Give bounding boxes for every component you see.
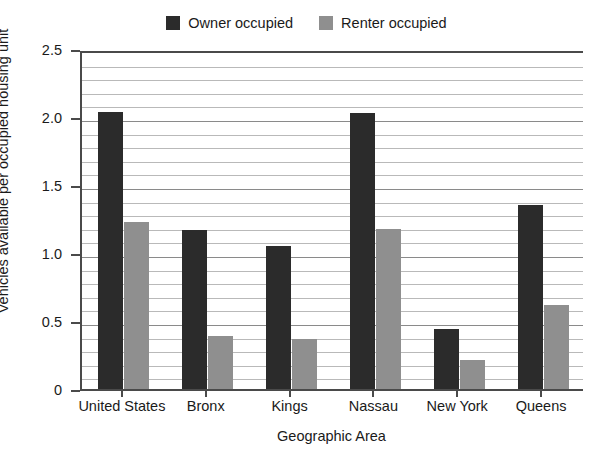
bar	[518, 205, 543, 389]
x-tick-mark	[121, 391, 123, 397]
bar	[460, 360, 485, 389]
x-tick-mark	[540, 391, 542, 397]
y-tick-mark	[71, 254, 80, 256]
y-tick-mark	[71, 390, 80, 392]
y-tick-mark	[71, 118, 80, 120]
y-tick-label: 0	[18, 382, 62, 398]
gridline-minor	[82, 366, 583, 367]
bar	[182, 230, 207, 389]
y-tick-mark	[71, 50, 80, 52]
x-tick-mark	[289, 391, 291, 397]
gridline-minor	[82, 67, 583, 68]
bar	[292, 339, 317, 389]
gridline-minor	[82, 243, 583, 244]
legend-entry-renter-occupied: Renter occupied	[319, 16, 447, 31]
bar	[376, 229, 401, 389]
bar	[266, 246, 291, 389]
bar	[350, 113, 375, 389]
gridline-minor	[82, 162, 583, 163]
bar	[98, 112, 123, 389]
gridline-minor	[82, 271, 583, 272]
plot-area	[80, 51, 583, 391]
gridline-major	[82, 189, 583, 190]
gridline-minor	[82, 107, 583, 108]
y-tick-mark	[71, 186, 80, 188]
gridline-minor	[82, 148, 583, 149]
bar	[208, 336, 233, 389]
y-tick-mark	[71, 322, 80, 324]
legend-label-owner-occupied: Owner occupied	[188, 16, 293, 31]
gridline-minor	[82, 80, 583, 81]
gridline-minor	[82, 339, 583, 340]
gridline-minor	[82, 284, 583, 285]
x-tick-label: Queens	[481, 398, 601, 414]
y-tick-label: 0.5	[18, 314, 62, 330]
x-axis-title: Geographic Area	[80, 428, 583, 444]
gridline-minor	[82, 352, 583, 353]
y-tick-label: 2.0	[18, 110, 62, 126]
legend-swatch-owner-occupied	[166, 16, 180, 30]
gridline-minor	[82, 216, 583, 217]
gridline-minor	[82, 94, 583, 95]
gridline-minor	[82, 175, 583, 176]
y-tick-label: 1.0	[18, 246, 62, 262]
gridline-major	[82, 121, 583, 122]
y-tick-label: 2.5	[18, 42, 62, 58]
legend-label-renter-occupied: Renter occupied	[341, 16, 447, 31]
gridline-minor	[82, 379, 583, 380]
gridline-minor	[82, 203, 583, 204]
bar	[434, 329, 459, 389]
y-tick-label: 1.5	[18, 178, 62, 194]
gridline-minor	[82, 298, 583, 299]
gridline-minor	[82, 230, 583, 231]
gridline-major	[82, 257, 583, 258]
x-tick-mark	[456, 391, 458, 397]
bar	[124, 222, 149, 389]
bar-chart: Owner occupied Renter occupied Vehicles …	[0, 0, 613, 463]
gridline-major	[82, 325, 583, 326]
x-tick-mark	[205, 391, 207, 397]
gridline-minor	[82, 311, 583, 312]
y-axis-title: Vehicles available per occupied housing …	[0, 0, 11, 371]
legend-swatch-renter-occupied	[319, 16, 333, 30]
x-tick-mark	[372, 391, 374, 397]
bar	[544, 305, 569, 389]
legend-entry-owner-occupied: Owner occupied	[166, 16, 293, 31]
chart-legend: Owner occupied Renter occupied	[0, 16, 613, 31]
gridline-minor	[82, 135, 583, 136]
